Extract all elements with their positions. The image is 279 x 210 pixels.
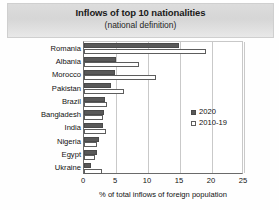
- x-axis-tick-label: 0: [81, 176, 85, 185]
- bar-2010-19: [84, 115, 103, 120]
- category-label: Albania: [56, 58, 81, 66]
- category-label: Brazil: [62, 98, 81, 106]
- x-axis-label: % of total inflows of foreign population: [83, 190, 243, 199]
- bar-2020: [84, 163, 91, 168]
- x-axis-tick-label: 10: [143, 176, 151, 185]
- bar-2010-19: [84, 155, 95, 160]
- bar-2020: [84, 150, 97, 155]
- bar-2020: [84, 123, 103, 128]
- chart-row: Nigeria: [84, 135, 242, 148]
- category-label: Nigeria: [57, 138, 81, 146]
- chart-row: Morocco: [84, 69, 242, 82]
- legend-label-2010-19: 2010-19: [199, 118, 227, 127]
- bar-2020: [84, 110, 104, 115]
- category-label: Egypt: [62, 151, 81, 159]
- bar-2010-19: [84, 129, 106, 134]
- bar-2020: [84, 70, 115, 75]
- page-title: Inflows of top 10 nationalities: [8, 7, 273, 18]
- category-label: Romania: [51, 45, 81, 53]
- x-axis-tick-label: 15: [175, 176, 183, 185]
- x-axis-tick-label: 25: [239, 176, 247, 185]
- chart-row: Romania: [84, 42, 242, 55]
- bar-2010-19: [84, 62, 139, 67]
- bar-2010-19: [84, 49, 206, 54]
- bar-2010-19: [84, 142, 97, 147]
- chart-row: Egypt: [84, 148, 242, 161]
- chart-row: Albania: [84, 55, 242, 68]
- bar-2020: [84, 83, 111, 88]
- chart-subtitle: (national definition): [8, 20, 273, 30]
- bar-2010-19: [84, 75, 156, 80]
- category-label: India: [65, 124, 81, 132]
- category-label: Morocco: [52, 71, 81, 79]
- category-label: Ukraine: [55, 164, 81, 172]
- bar-2020: [84, 137, 99, 142]
- legend-label-2020: 2020: [199, 107, 216, 116]
- category-label: Pakistan: [52, 85, 81, 93]
- chart-title-band: Inflows of top 10 nationalities (nationa…: [7, 3, 274, 38]
- x-axis-tick-label: 20: [207, 176, 215, 185]
- bar-2010-19: [84, 89, 124, 94]
- chart-row: Ukraine: [84, 162, 242, 175]
- x-axis-tick-label: 5: [113, 176, 117, 185]
- bar-2010-19: [84, 102, 107, 107]
- gridline: [244, 42, 245, 173]
- legend-swatch-2010-19-icon: [191, 121, 196, 126]
- chart-container: Inflows of top 10 nationalities (nationa…: [0, 0, 279, 210]
- category-label: Bangladesh: [41, 111, 81, 119]
- bar-2020: [84, 43, 179, 48]
- legend-swatch-2020-icon: [191, 110, 196, 115]
- bar-rows: RomaniaAlbaniaMoroccoPakistanBrazilBangl…: [84, 42, 242, 173]
- chart-row: Brazil: [84, 95, 242, 108]
- bar-2020: [84, 97, 105, 102]
- bar-2010-19: [84, 169, 102, 174]
- bar-2020: [84, 57, 116, 62]
- chart-row: Pakistan: [84, 82, 242, 95]
- plot-area: RomaniaAlbaniaMoroccoPakistanBrazilBangl…: [83, 41, 243, 174]
